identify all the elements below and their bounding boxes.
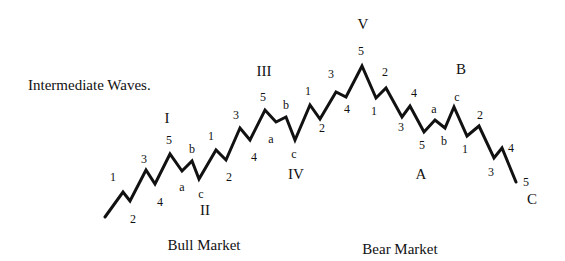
minor-wave-label: 5 [166,134,172,146]
minor-wave-label: 3 [233,109,239,121]
minor-wave-label: 4 [508,142,514,154]
minor-wave-label: 1 [371,105,377,117]
major-wave-label: I [165,111,170,126]
major-wave-label: II [200,203,210,218]
minor-wave-label: 5 [358,45,364,57]
minor-wave-label: c [291,148,296,160]
minor-wave-label: 3 [488,166,494,178]
minor-wave-label: a [431,103,436,115]
minor-wave-label: 4 [411,87,417,99]
major-wave-label: III [257,64,272,79]
diagram-title: Intermediate Waves. [28,78,151,93]
minor-wave-label: 2 [226,171,232,183]
major-wave-label: C [527,192,537,207]
minor-wave-label: 5 [260,91,266,103]
minor-wave-label: 2 [382,66,388,78]
minor-wave-label: 2 [477,109,483,121]
minor-wave-label: 2 [130,213,136,225]
minor-wave-label: b [283,99,289,111]
minor-wave-label: c [198,188,203,200]
minor-wave-label: c [454,91,459,103]
major-wave-label: V [358,17,369,32]
bear-market-caption: Bear Market [362,242,437,257]
minor-wave-label: 4 [344,103,350,115]
major-wave-label: A [416,167,427,182]
minor-wave-label: 1 [462,143,468,155]
minor-wave-label: 3 [141,153,147,165]
major-wave-label: IV [288,167,304,182]
minor-wave-label: 3 [398,121,404,133]
minor-wave-label: 1 [208,130,214,142]
minor-wave-label: 3 [328,68,334,80]
minor-wave-label: a [179,181,184,193]
minor-wave-label: 5 [523,176,529,188]
minor-wave-label: 1 [110,171,116,183]
minor-wave-label: b [189,143,195,155]
minor-wave-label: 1 [305,85,311,97]
major-wave-label: B [456,62,466,77]
minor-wave-label: a [268,133,273,145]
minor-wave-label: 4 [251,151,257,163]
minor-wave-label: 5 [419,139,425,151]
minor-wave-label: b [441,135,447,147]
minor-wave-label: 2 [319,122,325,134]
minor-wave-label: 4 [157,196,163,208]
elliott-wave-diagram [0,0,565,261]
bull-market-caption: Bull Market [168,238,241,253]
